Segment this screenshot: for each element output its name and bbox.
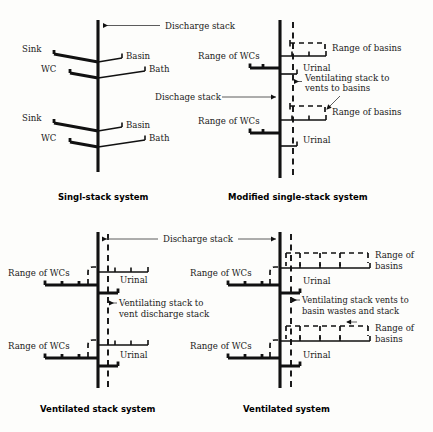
basin-vent-run-upper — [290, 43, 325, 52]
panel-title-ventilated-stack: Ventilated stack system — [40, 404, 155, 414]
label-basin-lower: Basin — [126, 120, 151, 130]
panel-single-stack: Discharge stack Sink Basin WC Bath Sink … — [22, 20, 236, 202]
label-range-of-wcs-lower-3: Range of WCs — [8, 341, 70, 351]
label-vent-note-line2-2: vents to basins — [304, 83, 370, 93]
label-vent-note-line2-4: basin wastes and stack — [302, 306, 400, 316]
bath-branch-upper — [98, 71, 145, 78]
wc-branch-upper — [70, 73, 98, 78]
label-sink-upper: Sink — [22, 44, 42, 54]
label-bath-lower: Bath — [149, 133, 170, 143]
panel-title-modified-single-stack: Modified single-stack system — [228, 192, 368, 202]
sink-branch-lower — [54, 123, 98, 131]
label-discharge-stack: Discharge stack — [165, 21, 236, 31]
label-vent-note-line1-3: Ventilating stack to — [118, 298, 203, 308]
panel-ventilated-stack: Discharge stack Range of WCs Urinal Vent… — [8, 232, 234, 414]
label-sink-lower: Sink — [22, 113, 42, 123]
wc-branch-lower — [70, 142, 98, 147]
label-vent-note-line1-2: Ventilating stack to — [304, 73, 389, 83]
label-urinal-lower-3: Urinal — [120, 350, 148, 360]
label-range-of-wcs-lower-2: Range of WCs — [198, 116, 260, 126]
panel-ventilated-system: Range of basins Range of WCs Urinal Vent… — [190, 232, 415, 414]
label-range-of-wcs-upper-2: Range of WCs — [198, 51, 260, 61]
basin-branch-upper — [98, 58, 122, 62]
label-urinal-upper-4: Urinal — [303, 276, 331, 286]
label-range-of-basins-line2-lower-4: basins — [375, 334, 403, 344]
label-urinal-lower-4: Urinal — [303, 350, 331, 360]
label-discharge-stack-2: Dischage stack — [155, 92, 222, 102]
label-range-of-basins-line2-upper-4: basins — [375, 261, 403, 271]
label-urinal-lower-2: Urinal — [303, 135, 331, 145]
label-range-of-basins-upper: Range of basins — [332, 43, 401, 53]
basin-branch-lower — [98, 127, 122, 131]
label-vent-note-line1-4: Ventilating stack vents to — [301, 295, 409, 305]
label-range-of-wcs-upper-3: Range of WCs — [8, 268, 70, 278]
label-range-of-basins-lower: Range of basins — [332, 107, 401, 117]
label-wc-upper: WC — [41, 64, 57, 74]
label-basin-upper: Basin — [126, 51, 151, 61]
panel-modified-single-stack: Dischage stack Range of basins Range of … — [155, 20, 401, 202]
label-range-of-wcs-lower-4: Range of WCs — [190, 341, 252, 351]
panel-title-ventilated-system: Ventilated system — [243, 404, 330, 414]
label-range-of-basins-line1-upper-4: Range of — [375, 250, 415, 260]
figure-canvas: Discharge stack Sink Basin WC Bath Sink … — [0, 0, 433, 432]
sink-branch-upper — [54, 54, 98, 62]
plumbing-stack-systems-figure: Discharge stack Sink Basin WC Bath Sink … — [0, 0, 433, 432]
label-bath-upper: Bath — [149, 64, 170, 74]
label-range-of-wcs-upper-4: Range of WCs — [190, 268, 252, 278]
label-urinal-upper-2: Urinal — [303, 63, 331, 73]
panel-title-single-stack: Singl-stack system — [58, 192, 149, 202]
label-range-of-basins-line1-lower-4: Range of — [375, 323, 415, 333]
label-wc-lower: WC — [41, 133, 57, 143]
basin-vent-run-lower — [290, 106, 325, 116]
bath-branch-lower — [98, 140, 145, 147]
label-vent-note-line2-3: vent discharge stack — [118, 309, 210, 319]
label-discharge-stack-3: Discharge stack — [163, 234, 234, 244]
label-urinal-upper-3: Urinal — [120, 275, 148, 285]
